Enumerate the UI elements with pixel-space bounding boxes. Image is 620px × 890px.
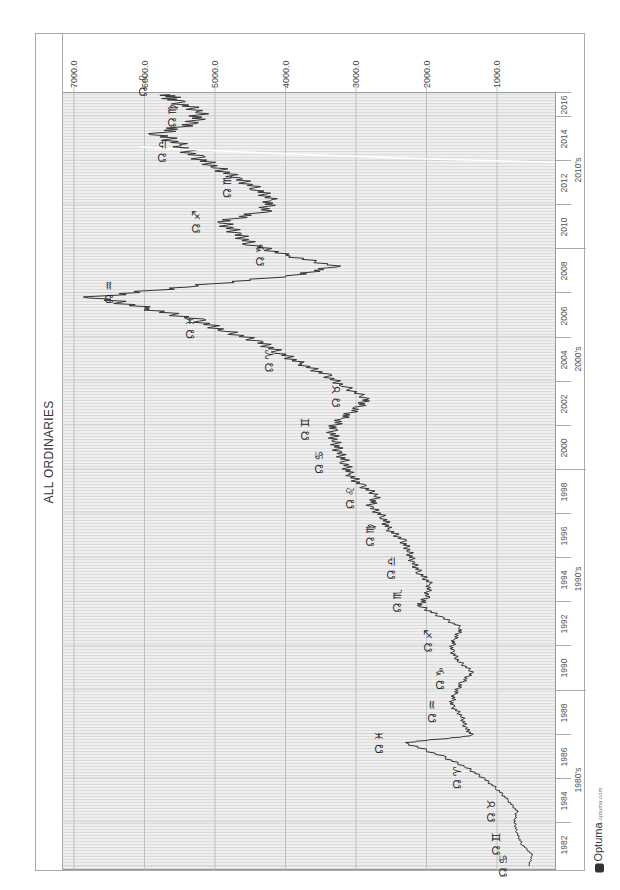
brand-url: optuma.com — [597, 787, 603, 820]
node-sign-annotation: ☊ ♌ — [344, 486, 357, 509]
zodiac-glyph-icon: ☊ ♌ — [344, 486, 357, 509]
node-sign-annotation: ☊ ♋ — [497, 854, 510, 877]
zodiac-glyph-icon: ☊ ♐ — [422, 629, 435, 652]
zodiac-glyph-icon: ☊ ♑ — [434, 667, 447, 690]
zodiac-glyph-icon: ☊ ♒ — [426, 700, 439, 723]
node-sign-annotation: ☊ ♏ — [221, 175, 234, 198]
zodiac-glyph-icon: ☊ ♍ — [166, 104, 179, 127]
node-sign-annotation: ☊ ♑ — [254, 243, 267, 266]
node-sign-annotation: ☊ ♎ — [385, 557, 398, 580]
node-sign-annotation: ☊ ♏ — [391, 590, 404, 613]
node-sign-annotation: ☊ ♑ — [434, 667, 447, 690]
node-sign-annotation: ☊ ♐ — [422, 629, 435, 652]
node-sign-annotation: ☊ ♋ — [313, 451, 326, 474]
node-sign-annotation: ☊ ♊ — [299, 418, 312, 441]
zodiac-glyph-icon: ☊ ♏ — [391, 590, 404, 613]
node-sign-annotation: ☊ ♓ — [184, 316, 197, 339]
zodiac-glyph-icon: ☊ ♈ — [451, 766, 464, 789]
node-sign-annotation: ☊ ♈ — [263, 349, 276, 372]
node-sign-annotation: ☊ ♐ — [190, 210, 203, 233]
zodiac-glyph-icon: ☊ ♍ — [364, 524, 377, 547]
value-tick-label: 6000.0 — [140, 60, 150, 88]
zodiac-glyph-icon: ☊ ♏ — [221, 175, 234, 198]
zodiac-glyph-icon: ☊ ♑ — [254, 243, 267, 266]
node-sign-annotation: ☊ ♎ — [156, 140, 169, 163]
zodiac-glyph-icon: ☊ ♊ — [490, 832, 503, 855]
decade-label: 2000's — [573, 346, 583, 371]
zodiac-glyph-icon: ☊ ♎ — [385, 557, 398, 580]
node-sign-annotation: ☊ ♒ — [426, 700, 439, 723]
decade-label: 1990's — [573, 567, 583, 592]
zodiac-glyph-icon: ☊ ♐ — [190, 210, 203, 233]
node-sign-annotation: ☊ ♊ — [490, 832, 503, 855]
decade-label: 2010's — [573, 158, 583, 183]
node-sign-annotation: ☊ ♍ — [364, 524, 377, 547]
zodiac-glyph-icon: ☊ ♋ — [313, 451, 326, 474]
node-sign-annotation: ☊ ♒ — [103, 281, 116, 304]
zodiac-glyph-icon: ☊ ♋ — [497, 854, 510, 877]
zodiac-glyph-icon: ☊ ♒ — [103, 281, 116, 304]
value-tick-label: 4000.0 — [281, 60, 291, 88]
brand-name: Optuma — [592, 822, 604, 861]
node-sign-annotation: ☊ ♉ — [330, 385, 343, 408]
value-tick-label: 2000.0 — [422, 60, 432, 88]
node-sign-annotation: ☊ ♍ — [166, 104, 179, 127]
node-sign-annotation: ☊ ♉ — [485, 799, 498, 822]
value-tick-label: 3000.0 — [351, 60, 361, 88]
zodiac-glyph-icon: ☊ ♓ — [373, 731, 386, 754]
node-sign-annotation: ☊ ♈ — [451, 766, 464, 789]
price-line — [83, 94, 532, 866]
value-tick-label: 5000.0 — [210, 60, 220, 88]
zodiac-glyph-icon: ☊ ♉ — [485, 799, 498, 822]
value-tick-label: 1000.0 — [492, 60, 502, 88]
zodiac-glyph-icon: ☊ ♊ — [299, 418, 312, 441]
decade-label: 1980's — [573, 767, 583, 792]
chart-page: ALL ORDINARIES 1982198419861988199019921… — [0, 0, 620, 890]
zodiac-glyph-icon: ☊ ♎ — [156, 140, 169, 163]
optuma-logo: Optumaoptuma.com — [592, 787, 604, 872]
optuma-logo-icon — [595, 864, 604, 873]
zodiac-glyph-icon: ☊ ♉ — [330, 385, 343, 408]
node-sign-annotation: ☊ ♓ — [373, 731, 386, 754]
zodiac-glyph-icon: ☊ ♓ — [184, 316, 197, 339]
chart-overlay: ☊ ♋☊ ♊☊ ♉☊ ♈☊ ♓☊ ♒☊ ♑☊ ♐☊ ♏☊ ♎☊ ♍☊ ♌☊ ♋☊… — [0, 0, 620, 890]
value-tick-label: 7000.0 — [69, 60, 79, 88]
zodiac-glyph-icon: ☊ ♈ — [263, 349, 276, 372]
